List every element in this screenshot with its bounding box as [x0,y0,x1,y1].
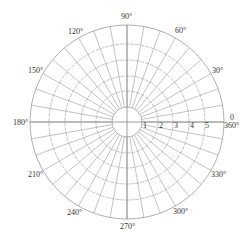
angle-label-270: 270° [120,222,135,231]
angle-label-360: 360° [224,121,239,130]
radial-label-2: 2 [159,121,163,130]
radial-label-5: 5 [205,121,209,130]
radial-label-1: 1 [143,121,147,130]
radial-label-4: 4 [190,121,194,130]
angle-label-30: 30° [212,66,223,75]
radial-label-3: 3 [174,121,178,130]
angle-label-150: 150° [28,66,43,75]
polar-grid-diagram: 90° 60° 30° 0 360° 330° 300° 270° 240° 2… [0,0,250,244]
angle-label-60: 60° [175,26,186,35]
angle-label-330: 330° [211,170,226,179]
angle-label-90: 90° [121,12,132,21]
polar-grid [30,25,224,219]
angle-label-240: 240° [67,208,82,217]
angle-label-180: 180° [13,118,28,127]
angle-label-210: 210° [28,170,43,179]
angle-label-300: 300° [173,207,188,216]
angle-label-120: 120° [68,27,83,36]
